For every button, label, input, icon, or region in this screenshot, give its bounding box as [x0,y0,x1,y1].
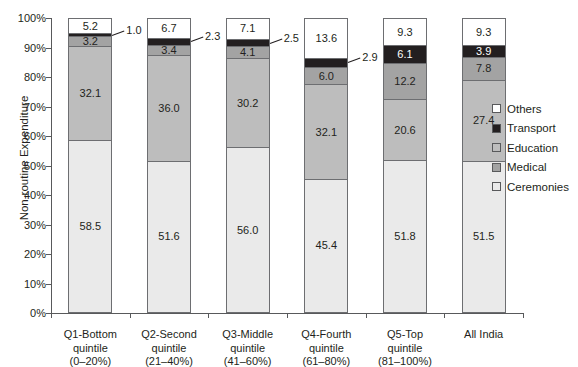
legend-label: Transport [507,122,556,134]
y-tick-mark [46,195,51,196]
callout-value-label: 2.5 [284,33,299,44]
y-tick-mark [46,136,51,137]
y-tick-mark [46,77,51,78]
y-tick-mark [46,166,51,167]
bar-segment-education[interactable]: 30.2 [226,58,270,147]
legend-item-transport[interactable]: Transport [492,119,578,139]
y-tick-label: 30% [4,220,46,230]
segment-value-label: 32.1 [80,88,101,99]
segment-value-label: 27.4 [473,115,494,126]
legend-item-ceremonies[interactable]: Ceremonies [492,177,578,197]
legend-label: Education [507,142,558,154]
bar-1[interactable]: 5.21.03.232.158.5 [68,18,112,313]
x-axis-label-line: quintile [359,342,451,356]
bar-segment-ceremonies[interactable]: 58.5 [68,140,112,313]
bar-segment-ceremonies[interactable]: 51.8 [383,160,427,313]
legend-label: Ceremonies [507,181,569,193]
bar-segment-others[interactable]: 13.6 [304,18,348,58]
y-tick-mark [46,107,51,108]
bar-segment-transport[interactable]: 6.1 [383,45,427,63]
y-tick-label: 50% [4,161,46,171]
chart-legend: OthersTransportEducationMedicalCeremonie… [492,99,578,197]
legend-label: Others [507,103,542,115]
x-tick-mark [444,313,445,318]
legend-item-education[interactable]: Education [492,138,578,158]
segment-value-label: 32.1 [316,127,337,138]
segment-value-label: 30.2 [237,98,258,109]
bar-segment-medical[interactable]: 3.4 [147,45,191,55]
bar-segment-medical[interactable]: 3.2 [68,36,112,45]
bar-segment-medical[interactable]: 12.2 [383,63,427,99]
bar-4[interactable]: 13.62.96.032.145.4 [304,18,348,313]
y-tick-mark [46,254,51,255]
bar-segment-medical[interactable]: 4.1 [226,46,270,58]
legend-swatch-others [492,104,501,113]
y-tick-label: 70% [4,102,46,112]
y-tick-label: 0% [4,308,46,318]
segment-value-label: 45.4 [316,240,337,251]
legend-swatch-medical [492,163,501,172]
bar-segment-transport[interactable]: 3.9 [462,45,506,57]
x-tick-mark [51,313,52,318]
bar-segment-education[interactable]: 32.1 [68,46,112,141]
segment-value-label: 9.3 [476,27,491,38]
x-tick-mark [287,313,288,318]
bar-segment-ceremonies[interactable]: 56.0 [226,147,270,312]
bar-segment-others[interactable]: 9.3 [462,18,506,45]
segment-value-label: 7.8 [476,63,491,74]
segment-value-label: 20.6 [394,125,415,136]
x-tick-mark [130,313,131,318]
segment-value-label: 9.3 [397,27,412,38]
segment-value-label: 36.0 [158,103,179,114]
y-tick-label: 60% [4,131,46,141]
y-tick-label: 80% [4,72,46,82]
segment-value-label: 3.9 [476,46,491,57]
segment-value-label: 12.2 [394,76,415,87]
legend-label: Medical [507,161,547,173]
bar-segment-education[interactable]: 32.1 [304,84,348,179]
bar-3[interactable]: 7.12.54.130.256.0 [226,18,270,313]
x-axis-label-6: All India [438,328,530,342]
segment-value-label: 51.8 [394,231,415,242]
bar-segment-education[interactable]: 36.0 [147,55,191,161]
segment-value-label: 58.5 [80,221,101,232]
x-axis-label-line: All India [438,328,530,342]
legend-item-others[interactable]: Others [492,99,578,119]
y-axis-line [51,18,52,314]
bar-segment-medical[interactable]: 7.8 [462,57,506,80]
bar-segment-others[interactable]: 5.2 [68,18,112,33]
callout-leader-line [191,37,204,42]
bar-segment-transport[interactable]: 2.9 [304,58,348,67]
x-axis-label-line: (81–100%) [359,355,451,367]
callout-value-label: 2.9 [362,52,377,63]
segment-value-label: 3.4 [161,45,176,56]
bar-segment-transport[interactable]: 2.5 [226,39,270,46]
x-axis-labels: Q1-Bottomquintile(0–20%)Q2-Secondquintil… [51,320,523,367]
bar-segment-ceremonies[interactable]: 45.4 [304,179,348,313]
bar-segment-education[interactable]: 20.6 [383,99,427,160]
y-tick-mark [46,225,51,226]
y-tick-label: 10% [4,279,46,289]
segment-value-label: 6.0 [319,71,334,82]
bar-5[interactable]: 9.36.112.220.651.8 [383,18,427,313]
bar-segment-others[interactable]: 6.7 [147,18,191,38]
bar-segment-others[interactable]: 7.1 [226,18,270,39]
bar-segment-others[interactable]: 9.3 [383,18,427,45]
stacked-bar-chart: Non-routine Expenditure 100% 90% 80% 70%… [0,0,578,367]
x-tick-mark [208,313,209,318]
legend-item-medical[interactable]: Medical [492,158,578,178]
segment-value-label: 6.7 [161,23,176,34]
y-tick-mark [46,48,51,49]
callout-value-label: 1.0 [126,25,141,36]
bar-segment-ceremonies[interactable]: 51.6 [147,161,191,313]
segment-value-label: 5.2 [83,21,98,32]
segment-value-label: 51.5 [473,231,494,242]
bar-segment-medical[interactable]: 6.0 [304,67,348,85]
legend-swatch-ceremonies [492,182,501,191]
plot-area: 5.21.03.232.158.56.72.33.436.051.67.12.5… [51,18,523,313]
callout-leader-line [348,58,361,63]
y-tick-label: 20% [4,249,46,259]
y-axis-tick-labels: 100% 90% 80% 70% 60% 50% 40% 30% 20% 10%… [0,0,46,367]
segment-value-label: 3.2 [83,36,98,47]
bar-2[interactable]: 6.72.33.436.051.6 [147,18,191,313]
